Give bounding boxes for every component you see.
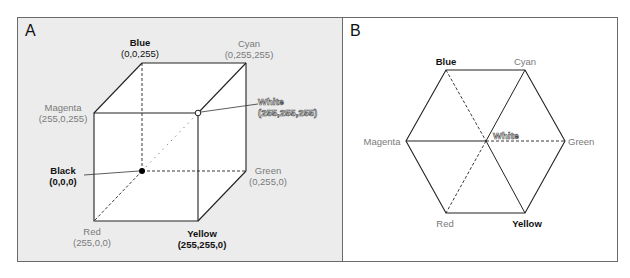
hex-label-blue: Blue bbox=[431, 56, 461, 67]
label-green-name: Green bbox=[246, 165, 290, 176]
label-black-rgb: (0,0,0) bbox=[42, 176, 84, 187]
label-green: Green (0,255,0) bbox=[246, 165, 290, 187]
label-black-name: Black bbox=[42, 165, 84, 176]
label-green-rgb: (0,255,0) bbox=[246, 176, 290, 187]
label-white-name: White bbox=[258, 96, 317, 107]
label-white-rgb: (255,255,255) bbox=[258, 107, 317, 118]
hex-label-yellow: Yellow bbox=[509, 218, 545, 229]
label-cyan-name: Cyan bbox=[216, 38, 282, 49]
label-white: White (255,255,255) bbox=[258, 96, 317, 118]
hex-label-magenta: Magenta bbox=[360, 136, 404, 147]
label-yellow: Yellow (255,255,0) bbox=[170, 228, 234, 250]
label-blue-name: Blue bbox=[110, 37, 170, 48]
label-blue-rgb: (0,0,255) bbox=[110, 48, 170, 59]
label-cyan: Cyan (0,255,255) bbox=[216, 38, 282, 60]
hex-label-red: Red bbox=[430, 218, 460, 229]
label-yellow-name: Yellow bbox=[170, 228, 234, 239]
hex-label-cyan: Cyan bbox=[509, 56, 541, 67]
label-magenta-name: Magenta bbox=[33, 102, 93, 113]
panel-b-letter: B bbox=[350, 22, 361, 40]
label-red-name: Red bbox=[70, 226, 114, 237]
white-vertex-marker bbox=[195, 110, 201, 116]
label-blue: Blue (0,0,255) bbox=[110, 37, 170, 59]
hex-label-green: Green bbox=[568, 136, 604, 147]
label-red: Red (255,0,0) bbox=[70, 226, 114, 248]
hex-label-white: White bbox=[493, 130, 519, 141]
label-yellow-rgb: (255,255,0) bbox=[170, 239, 234, 250]
label-magenta-rgb: (255,0,255) bbox=[33, 113, 93, 124]
label-black: Black (0,0,0) bbox=[42, 165, 84, 187]
label-red-rgb: (255,0,0) bbox=[70, 237, 114, 248]
black-vertex-marker bbox=[139, 168, 145, 174]
label-magenta: Magenta (255,0,255) bbox=[33, 102, 93, 124]
label-cyan-rgb: (0,255,255) bbox=[216, 49, 282, 60]
